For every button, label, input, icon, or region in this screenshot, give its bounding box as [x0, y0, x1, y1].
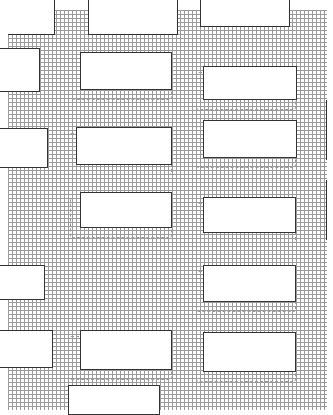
right-edge-line — [326, 180, 327, 240]
opening-c1-r3 — [80, 192, 172, 228]
top-gap-1 — [0, 0, 55, 35]
opening-c2-r5 — [203, 332, 296, 372]
opening-c1-r4 — [80, 330, 172, 370]
top-gap-slab-cap — [55, 0, 88, 10]
left-notch-3 — [0, 265, 45, 300]
left-notch-4 — [0, 330, 53, 368]
top-gap-slab-cap-3 — [290, 0, 328, 10]
top-gap-slab-cap-2 — [178, 0, 200, 10]
right-edge-line — [326, 100, 327, 160]
opening-c2-r2 — [203, 120, 297, 158]
left-notch-2 — [0, 128, 48, 168]
opening-c1-r2 — [76, 127, 172, 165]
opening-c1-r5 — [68, 385, 160, 415]
right-margin — [327, 0, 333, 410]
opening-c1-r1 — [80, 52, 172, 90]
top-gap-3 — [200, 0, 290, 27]
opening-c2-r1 — [203, 66, 297, 100]
opening-c2-r4 — [203, 265, 296, 302]
top-gap-2 — [88, 0, 178, 35]
opening-c2-r3 — [203, 197, 296, 233]
left-notch-1 — [0, 48, 40, 92]
